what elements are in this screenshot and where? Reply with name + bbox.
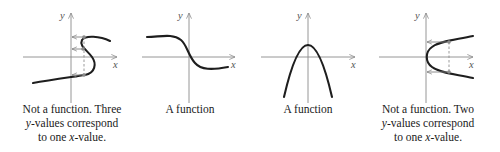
y-axis-label: y [59,10,65,21]
caption-sideways-parabola: Not a function. Two y-values correspond … [368,102,488,144]
caption-s-curve: Not a function. Three y-values correspon… [12,102,132,144]
caption-line: Not a function. Two [368,102,488,116]
caption-downward-parabola: A function [258,102,358,116]
caption-line: y-values correspond [12,116,132,130]
x-axis-label: x [230,59,236,70]
panel-downward-parabola: y x [261,10,356,103]
caption-line: Not a function. Three [12,102,132,116]
y-axis-label: y [414,10,420,21]
caption-line: to one x-value. [368,130,488,144]
panel-sideways-parabola: y x [379,10,474,103]
y-axis-label: y [296,10,302,21]
caption-line: to one x-value. [12,130,132,144]
y-axis-label: y [177,10,183,21]
caption-line: A function [140,102,240,116]
x-axis-label: x [350,59,356,70]
s-curve [33,37,110,83]
sigmoid-curve [147,36,228,69]
panel-s-curve: y x [23,10,118,103]
caption-decreasing-sigmoid: A function [140,102,240,116]
panel-decreasing-sigmoid: y x [142,10,236,103]
caption-line: y-values correspond [368,116,488,130]
x-axis-label: x [112,59,118,70]
x-axis-label: x [468,59,474,70]
caption-line: A function [258,102,358,116]
